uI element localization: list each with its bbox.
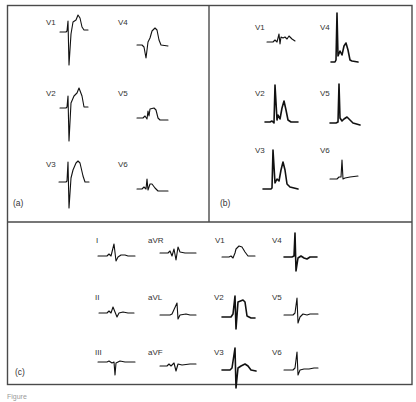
lead-label: V3 bbox=[46, 160, 56, 169]
lead-label: I bbox=[96, 236, 98, 245]
ecg-trace-c-v5 bbox=[284, 298, 318, 323]
ecg-trace-c-v4 bbox=[284, 233, 317, 271]
ecg-trace-a-v6 bbox=[137, 179, 168, 191]
ecg-trace-a-v1 bbox=[60, 15, 88, 65]
lead-label: V1 bbox=[46, 18, 56, 27]
ecg-trace-c-avf bbox=[160, 363, 196, 371]
ecg-trace-c-avr bbox=[160, 247, 196, 260]
lead-label: V6 bbox=[272, 348, 282, 357]
ecg-figure: V1 V4 V2 V5 V3 V6 (a) V1 V4 V2 V5 V3 V6 … bbox=[0, 0, 416, 402]
lead-label: aVR bbox=[148, 236, 164, 245]
lead-label: III bbox=[95, 348, 102, 357]
ecg-trace-c-v6 bbox=[284, 352, 318, 375]
ecg-trace-b-v4 bbox=[331, 13, 358, 62]
lead-label: V1 bbox=[215, 236, 225, 245]
ecg-trace-c-v1 bbox=[222, 246, 255, 258]
lead-label: V3 bbox=[214, 348, 224, 357]
panel-c: I aVR V1 V4 II aVL V2 V5 III aVF V3 V6 (… bbox=[15, 233, 318, 388]
panel-b: V1 V4 V2 V5 V3 V6 (b) bbox=[220, 13, 360, 208]
ecg-trace-b-v3 bbox=[263, 150, 298, 189]
lead-label: V5 bbox=[272, 293, 282, 302]
lead-label: V4 bbox=[320, 23, 330, 32]
ecg-trace-a-v3 bbox=[59, 161, 89, 208]
figure-caption-fragment: Figure bbox=[7, 393, 27, 400]
ecg-trace-c-avl bbox=[160, 303, 196, 319]
lead-label: V6 bbox=[118, 160, 128, 169]
ecg-trace-c-v3 bbox=[222, 348, 256, 388]
ecg-trace-a-v5 bbox=[137, 108, 168, 120]
ecg-trace-b-v6 bbox=[330, 160, 358, 179]
panel-label: (b) bbox=[220, 198, 231, 208]
ecg-trace-a-v4 bbox=[137, 28, 168, 58]
ecg-trace-b-v1 bbox=[267, 34, 295, 44]
lead-label: V3 bbox=[255, 146, 265, 155]
ecg-trace-c-ii bbox=[99, 307, 134, 317]
ecg-trace-c-v2 bbox=[222, 296, 255, 329]
ecg-trace-c-i bbox=[98, 244, 135, 261]
lead-label: V2 bbox=[214, 293, 224, 302]
panel-label: (a) bbox=[13, 198, 24, 208]
lead-label: V6 bbox=[320, 146, 330, 155]
panel-a: V1 V4 V2 V5 V3 V6 (a) bbox=[13, 15, 168, 208]
lead-label: V5 bbox=[118, 89, 128, 98]
ecg-trace-b-v5 bbox=[330, 84, 360, 125]
ecg-trace-c-iii bbox=[98, 361, 135, 375]
ecg-trace-a-v2 bbox=[60, 88, 88, 141]
lead-label: V4 bbox=[272, 236, 282, 245]
lead-label: V2 bbox=[46, 89, 56, 98]
lead-label: II bbox=[95, 293, 99, 302]
lead-label: V1 bbox=[255, 23, 265, 32]
lead-label: V4 bbox=[118, 18, 128, 27]
ecg-trace-b-v2 bbox=[265, 85, 298, 123]
lead-label: V2 bbox=[255, 89, 265, 98]
lead-label: V5 bbox=[320, 89, 330, 98]
lead-label: aVF bbox=[148, 348, 163, 357]
lead-label: aVL bbox=[148, 293, 163, 302]
panel-label: (c) bbox=[15, 367, 25, 377]
